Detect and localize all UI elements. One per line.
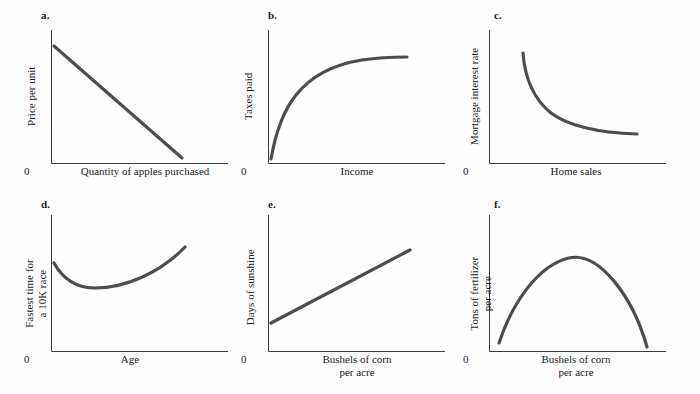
axis-lines bbox=[490, 215, 667, 352]
x-axis-label-e: Bushels of corn per acre bbox=[282, 353, 432, 378]
data-curve-c bbox=[523, 53, 637, 134]
y-axis-label-e: Days of sunshine bbox=[244, 242, 257, 332]
data-curve-f bbox=[499, 257, 647, 347]
chart-panel-d: d. 0 Age Fastest time for a 10K race bbox=[0, 193, 233, 390]
origin-label-d: 0 bbox=[24, 353, 30, 365]
data-curve-b bbox=[271, 57, 407, 159]
chart-panel-f: f. 0 Bushels of corn per acre Tons of fe… bbox=[461, 193, 694, 390]
data-curve-e bbox=[271, 250, 410, 323]
axis-lines bbox=[52, 215, 229, 352]
axis-lines bbox=[490, 30, 667, 164]
x-axis-label-d: Age bbox=[90, 353, 170, 366]
origin-label-f: 0 bbox=[463, 353, 469, 365]
x-axis-label-b: Income bbox=[282, 165, 432, 178]
data-curve-d bbox=[54, 247, 185, 288]
y-axis-label-f: Tons of fertilizer per acre bbox=[468, 244, 493, 344]
x-axis-label-f: Bushels of corn per acre bbox=[506, 353, 646, 378]
origin-label-b: 0 bbox=[241, 165, 247, 177]
y-axis-label-d: Fastest time for a 10K race bbox=[23, 245, 48, 343]
origin-label-e: 0 bbox=[241, 353, 247, 365]
x-axis-label-a: Quantity of apples purchased bbox=[60, 165, 230, 178]
origin-label-a: 0 bbox=[24, 165, 30, 177]
chart-panel-b: b. 0 Income Taxes paid bbox=[232, 0, 465, 197]
figure-sheet: a. 0 Quantity of apples purchased Price … bbox=[0, 0, 700, 394]
axis-lines bbox=[269, 215, 446, 352]
data-curve-a bbox=[54, 46, 182, 158]
x-axis-label-c: Home sales bbox=[506, 165, 646, 178]
origin-label-c: 0 bbox=[463, 165, 469, 177]
chart-panel-a: a. 0 Quantity of apples purchased Price … bbox=[0, 0, 233, 197]
y-axis-label-c: Mortgage interest rate bbox=[468, 46, 481, 146]
y-axis-label-a: Price per unit bbox=[25, 56, 38, 136]
chart-panel-c: c. 0 Home sales Mortgage interest rate bbox=[461, 0, 694, 197]
axis-lines bbox=[52, 30, 229, 164]
y-axis-label-b: Taxes paid bbox=[242, 56, 255, 136]
chart-panel-e: e. 0 Bushels of corn per acre Days of su… bbox=[232, 193, 465, 390]
